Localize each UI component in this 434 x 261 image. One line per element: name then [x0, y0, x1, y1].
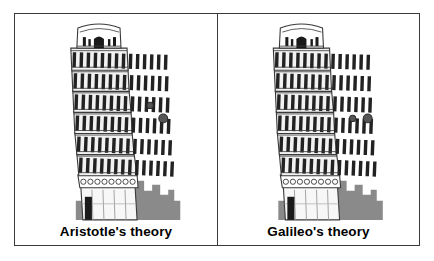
tower-doorway [287, 197, 294, 220]
tower-base [283, 187, 339, 220]
falling-balls-aristotle [147, 102, 168, 123]
panel-aristotle: Aristotle's theory [15, 14, 217, 245]
tower-belfry [77, 24, 121, 48]
tower-blind-arcade [78, 175, 138, 188]
panel-galileo: Galileo's theory [217, 14, 419, 245]
tower-tier-6 [279, 154, 376, 177]
tower-base [81, 187, 137, 220]
scene-aristotle [15, 14, 217, 245]
tower-tier-1 [273, 48, 370, 70]
large-ball [363, 114, 372, 123]
tower-tier-3 [73, 90, 170, 112]
tower-tier-5 [277, 133, 374, 156]
tower-blind-arcade [280, 175, 340, 188]
caption-aristotle: Aristotle's theory [15, 224, 217, 239]
tower-tier-5 [75, 133, 172, 156]
large-ball [159, 114, 168, 123]
caption-galileo: Galileo's theory [218, 224, 419, 239]
tower-illustration-aristotle [15, 14, 217, 245]
tower-belfry [279, 24, 323, 48]
scene-galileo [218, 14, 419, 245]
tower-tier-1 [71, 48, 168, 70]
tower-tier-2 [72, 69, 169, 91]
tower-tier-4 [74, 111, 171, 134]
small-ball [147, 102, 153, 108]
tower-tier-2 [274, 69, 371, 91]
tower-doorway [85, 197, 92, 220]
tower-tier-3 [275, 90, 372, 112]
falling-balls-galileo [350, 114, 373, 123]
tower-illustration-galileo [218, 14, 419, 245]
tower-tier-4 [276, 111, 373, 134]
small-ball [350, 115, 356, 121]
figure-frame: Aristotle's theory [14, 13, 420, 246]
tower-tier-6 [77, 154, 174, 177]
